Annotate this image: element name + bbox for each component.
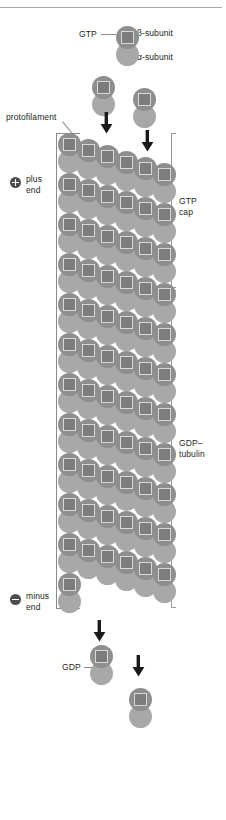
nucleotide-square-icon: [120, 196, 133, 209]
incoming-dimer-left-beta: [92, 76, 115, 99]
nucleotide-square-icon: [120, 316, 133, 329]
nucleotide-square-icon: [101, 430, 114, 443]
nucleotide-square-icon: [139, 282, 152, 295]
released-gdp-dimer-2-beta: [129, 688, 152, 711]
incoming-dimer-right-beta: [133, 88, 156, 111]
minus-end-label: minus end: [26, 591, 49, 612]
nucleotide-square-icon: [158, 528, 171, 541]
lattice-beta-subunit: [153, 563, 176, 586]
nucleotide-square-icon: [139, 162, 152, 175]
nucleotide-square-icon: [82, 424, 95, 437]
nucleotide-square-icon: [139, 562, 152, 575]
nucleotide-square-icon: [63, 138, 76, 151]
plus-end-label: plus end: [26, 174, 42, 195]
nucleotide-square-icon: [121, 31, 134, 44]
nucleotide-square-icon: [158, 568, 171, 581]
nucleotide-square-icon: [63, 218, 76, 231]
nucleotide-square-icon: [120, 156, 133, 169]
nucleotide-square-icon: [63, 458, 76, 471]
nucleotide-square-icon: [82, 144, 95, 157]
nucleotide-square-icon: [158, 288, 171, 301]
nucleotide-square-icon: [139, 202, 152, 215]
nucleotide-square-icon: [101, 350, 114, 363]
lattice-beta-subunit: [153, 443, 176, 466]
released-gdp-dimer-beta: [90, 645, 113, 668]
nucleotide-square-icon: [120, 276, 133, 289]
lattice-beta-subunit: [153, 323, 176, 346]
lattice-beta-subunit: [153, 163, 176, 186]
lattice-beta-subunit: [153, 483, 176, 506]
nucleotide-square-icon: [158, 328, 171, 341]
nucleotide-square-icon: [158, 408, 171, 421]
nucleotide-square-icon: [101, 390, 114, 403]
minus-circle-icon: [10, 594, 21, 605]
beta-subunit-label: β-subunit: [137, 28, 173, 39]
nucleotide-square-icon: [82, 184, 95, 197]
arrow-add-left: [100, 112, 113, 134]
protofilament-label: protofilament: [6, 112, 56, 123]
nucleotide-square-icon: [120, 476, 133, 489]
lattice-beta-subunit: [153, 283, 176, 306]
nucleotide-square-icon: [101, 510, 114, 523]
nucleotide-square-icon: [82, 544, 95, 557]
nucleotide-square-icon: [158, 248, 171, 261]
nucleotide-square-icon: [63, 258, 76, 271]
nucleotide-square-icon: [139, 402, 152, 415]
nucleotide-square-icon: [82, 304, 95, 317]
nucleotide-square-icon: [101, 230, 114, 243]
nucleotide-square-icon: [63, 418, 76, 431]
nucleotide-square-icon: [82, 264, 95, 277]
lattice-beta-subunit: [153, 203, 176, 226]
nucleotide-square-icon: [101, 190, 114, 203]
nucleotide-square-icon: [101, 550, 114, 563]
nucleotide-square-icon: [63, 338, 76, 351]
nucleotide-square-icon: [158, 368, 171, 381]
nucleotide-square-icon: [82, 384, 95, 397]
lattice-beta-subunit: [153, 363, 176, 386]
lattice-beta-subunit: [58, 573, 81, 596]
plus-circle-icon: [10, 177, 21, 188]
nucleotide-square-icon: [139, 522, 152, 535]
nucleotide-square-icon: [63, 298, 76, 311]
nucleotide-square-icon: [134, 693, 147, 706]
nucleotide-square-icon: [82, 224, 95, 237]
nucleotide-square-icon: [82, 504, 95, 517]
nucleotide-square-icon: [158, 448, 171, 461]
nucleotide-square-icon: [139, 442, 152, 455]
nucleotide-square-icon: [63, 578, 76, 591]
gtp-label: GTP: [79, 29, 97, 40]
nucleotide-square-icon: [63, 498, 76, 511]
gtp-leader-line: [101, 34, 116, 35]
nucleotide-square-icon: [63, 538, 76, 551]
nucleotide-square-icon: [82, 344, 95, 357]
nucleotide-square-icon: [139, 362, 152, 375]
microtubule-diagram: GTP β-subunit α-subunit protofilament pl…: [0, 0, 226, 820]
nucleotide-square-icon: [139, 242, 152, 255]
nucleotide-square-icon: [138, 93, 151, 106]
nucleotide-square-icon: [63, 178, 76, 191]
nucleotide-square-icon: [97, 81, 110, 94]
nucleotide-square-icon: [101, 470, 114, 483]
lattice-beta-subunit: [153, 403, 176, 426]
nucleotide-square-icon: [158, 168, 171, 181]
nucleotide-square-icon: [120, 356, 133, 369]
nucleotide-square-icon: [120, 236, 133, 249]
nucleotide-square-icon: [63, 378, 76, 391]
nucleotide-square-icon: [95, 650, 108, 663]
alpha-subunit-label: α-subunit: [137, 52, 173, 63]
lattice-beta-subunit: [153, 243, 176, 266]
gtp-cap-label: GTP cap: [179, 196, 197, 217]
nucleotide-square-icon: [101, 150, 114, 163]
nucleotide-square-icon: [120, 436, 133, 449]
nucleotide-square-icon: [101, 270, 114, 283]
nucleotide-square-icon: [101, 310, 114, 323]
nucleotide-square-icon: [158, 208, 171, 221]
nucleotide-square-icon: [120, 516, 133, 529]
labeled-gtp-dimer-beta: [116, 26, 139, 49]
nucleotide-square-icon: [139, 482, 152, 495]
gdp-label: GDP: [62, 662, 81, 673]
nucleotide-square-icon: [120, 556, 133, 569]
arrow-release-right: [132, 655, 145, 677]
nucleotide-square-icon: [139, 322, 152, 335]
nucleotide-square-icon: [120, 396, 133, 409]
